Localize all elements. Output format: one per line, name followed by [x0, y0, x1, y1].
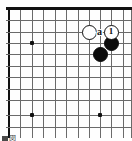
point-marker-a: a — [97, 27, 102, 37]
board-grid-line-v-5 — [55, 7, 56, 138]
board-top-edge-line — [6, 7, 132, 10]
board-grid-line-v-6 — [66, 7, 67, 138]
figure-caption: 図 — [2, 133, 16, 141]
star-point — [98, 113, 102, 117]
board-grid-line-h-10 — [6, 115, 132, 116]
white-stone[interactable] — [82, 25, 97, 40]
board-grid-line-h-9 — [6, 100, 132, 101]
caption-text: 図 — [9, 135, 16, 141]
board-grid-line-h-11 — [6, 127, 132, 128]
board-left-edge-line — [8, 7, 10, 138]
board-grid-line-v-4 — [43, 7, 44, 138]
board-grid-line-v-2 — [20, 7, 21, 138]
board-grid-line-v-11 — [123, 7, 124, 138]
board-grid-line-v-7 — [78, 7, 79, 138]
board-grid-line-v-3 — [32, 7, 33, 138]
move-number-label: 1 — [109, 27, 114, 36]
board-grid-line-h-2 — [6, 20, 132, 21]
board-grid-line-h-7 — [6, 77, 132, 78]
go-diagram-figure: 1 a 図 — [0, 0, 132, 141]
board-grid-line-h-8 — [6, 89, 132, 90]
star-point — [30, 113, 34, 117]
board-grid-line-v-12 — [131, 7, 132, 138]
go-board[interactable]: 1 a — [0, 0, 132, 141]
board-grid-line-h-6 — [6, 66, 132, 67]
board-grid-line-h-5 — [6, 54, 132, 55]
star-point — [30, 41, 34, 45]
caption-swatch-icon — [2, 136, 8, 141]
white-stone-move-1[interactable]: 1 — [104, 25, 119, 40]
